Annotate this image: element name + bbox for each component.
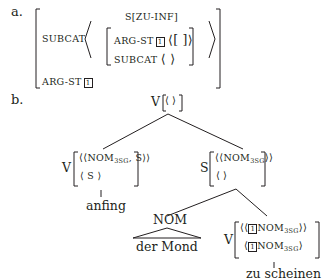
tag-box-1: 1 [84, 78, 93, 88]
inner-subcat-row: SUBCAT ⟨ ⟩ [114, 51, 175, 66]
words-der-mond: der Mond [136, 239, 198, 254]
nom-node-cat: NOM [153, 212, 187, 227]
part-a-label: a. [11, 4, 23, 19]
right-node-row1: ⟨⟨NOM3SG⟩⟩ [215, 152, 273, 165]
left-angle-bracket [85, 21, 91, 58]
inner-argst-row: ARG-ST1 ⟨[ ]⟩ [114, 32, 193, 47]
outer-argst-attr: ARG-ST1 [42, 76, 93, 88]
tag-box-1: 1 [248, 242, 257, 252]
tag-box-1: 1 [156, 37, 165, 47]
left-node-row2: ⟨ S ⟩ [80, 170, 101, 181]
words-zu-scheinen: zu scheinen [246, 266, 321, 280]
root-right-bracket [179, 95, 182, 111]
inner-v-node-cat: V [224, 232, 233, 247]
left-node-cat: V [62, 160, 71, 175]
right-angle-bracket [209, 21, 215, 58]
right-node-cat: S [200, 160, 209, 175]
inner-v-row2: ⟨1NOM3SG⟩ [244, 240, 303, 253]
outer-left-bracket [36, 9, 40, 88]
left-node-row1: ⟨⟨NOM3SG, S⟩⟩ [79, 152, 150, 165]
outer-subcat-attr: SUBCAT [42, 33, 85, 44]
inner-v-row1: ⟨⟨1NOM3SG⟩⟩ [240, 222, 307, 235]
part-b-label: b. [11, 92, 23, 107]
outer-right-bracket [216, 9, 220, 88]
inner-category-label: S[ZU-INF] [125, 11, 178, 22]
right-node-row2: ⟨ ⟩ [216, 170, 227, 181]
inner-left-bracket [107, 28, 111, 65]
root-cat: V [151, 94, 160, 109]
root-value: ⟨ ⟩ [165, 95, 176, 106]
word-anfing: anfing [86, 198, 126, 213]
